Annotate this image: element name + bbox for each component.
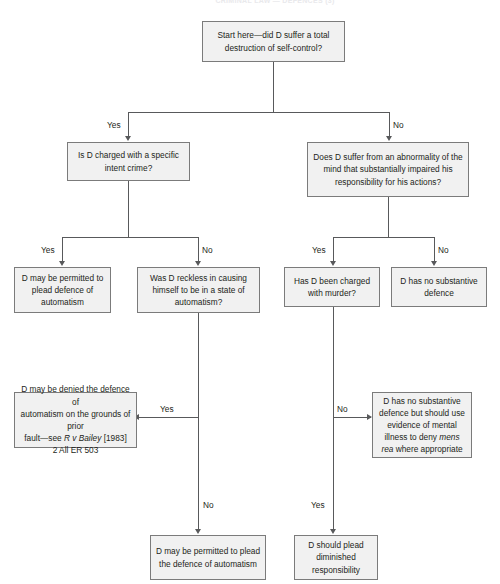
node-no-substantive-defence: D has no substantive defence <box>391 267 487 307</box>
node-reckless: Was D reckless in causing himself to be … <box>137 267 260 313</box>
edge-label-no-2: No <box>202 245 213 255</box>
arrowhead-no5 <box>195 529 201 534</box>
mens-rea-line-2: defence but should use <box>379 408 465 418</box>
node-denied-prior-fault-label: D may be denied the defence of automatis… <box>19 383 132 456</box>
node-permitted-automatism-label: D may be permitted to plead defence of a… <box>19 272 106 309</box>
denied-line-2: automatism on the grounds of prior <box>21 409 131 431</box>
chart-title: CRIMINAL LAW — DEFENCES (3) <box>170 0 380 6</box>
arrowhead-no2 <box>195 261 201 266</box>
node-diminished-responsibility: D should plead diminished responsibility <box>294 535 378 580</box>
mens-rea-italic-2: rea <box>381 444 393 454</box>
node-denied-prior-fault: D may be denied the defence of automatis… <box>14 392 137 448</box>
connector-murder-spine <box>333 307 334 530</box>
mens-rea-line-1: D has no substantive <box>383 396 460 406</box>
edge-label-no-3: No <box>438 245 449 255</box>
connector-row2-right-bus <box>333 237 434 238</box>
node-diminished-responsibility-label: D should plead diminished responsibility <box>299 539 373 576</box>
arrowhead-yes3 <box>330 261 336 266</box>
node-charged-murder-label: Has D been charged with murder? <box>289 275 375 299</box>
edge-label-yes-4: Yes <box>160 404 174 414</box>
arrowhead-yes5 <box>330 529 336 534</box>
node-permitted-plead-label: D may be permitted to plead the defence … <box>155 545 261 569</box>
arrowhead-yes2 <box>59 261 65 266</box>
node-specific-intent: Is D charged with a specific intent crim… <box>67 142 190 181</box>
denied-line-3c: [1983] <box>101 433 126 443</box>
connector-yes3-down <box>333 237 334 262</box>
arrowhead-yes1 <box>125 136 131 141</box>
node-permitted-automatism: D may be permitted to plead defence of a… <box>14 267 111 313</box>
node-permitted-plead: D may be permitted to plead the defence … <box>150 535 266 580</box>
mens-rea-italic-1: mens <box>439 432 459 442</box>
node-no-substantive-defence-label: D has no substantive defence <box>396 275 482 299</box>
connector-row1-bus <box>128 112 389 113</box>
edge-label-yes-5: Yes <box>311 500 325 510</box>
edge-label-no-5: No <box>203 500 214 510</box>
connector-no1-down <box>389 112 390 137</box>
node-start: Start here—did D suffer a total destruct… <box>202 21 345 62</box>
edge-label-no-1: No <box>393 120 404 130</box>
denied-line-3a: fault—see <box>24 433 64 443</box>
connector-no3-down <box>434 237 435 262</box>
connector-no2-down <box>198 237 199 262</box>
node-specific-intent-label: Is D charged with a specific intent crim… <box>72 149 185 173</box>
denied-line-1: D may be denied the defence of <box>21 384 129 406</box>
connector-yes4-left <box>137 417 198 418</box>
arrowhead-no3 <box>431 261 437 266</box>
connector-yes2-down <box>62 237 63 262</box>
node-start-label: Start here—did D suffer a total destruct… <box>207 29 340 53</box>
edge-label-yes-1: Yes <box>107 120 121 130</box>
arrowhead-no1 <box>386 136 392 141</box>
edge-label-yes-2: Yes <box>41 245 55 255</box>
connector-reckless-spine <box>198 313 199 530</box>
connector-no4-right <box>333 417 371 418</box>
node-mens-rea: D has no substantive defence but should … <box>372 392 472 458</box>
mens-rea-line-5b: where appropriate <box>393 444 462 454</box>
connector-row2-left-bus <box>62 237 198 238</box>
mens-rea-line-3: evidence of mental <box>387 420 457 430</box>
edge-label-yes-3: Yes <box>312 245 326 255</box>
node-mens-rea-label: D has no substantive defence but should … <box>377 395 467 456</box>
denied-line-4: 2 All ER 503 <box>53 445 99 455</box>
connector-start-down <box>273 62 274 112</box>
node-charged-murder: Has D been charged with murder? <box>284 267 380 307</box>
node-abnormality: Does D suffer from an abnormality of the… <box>307 142 469 197</box>
flowchart-canvas: CRIMINAL LAW — DEFENCES (3) Start here—d… <box>0 0 500 584</box>
node-reckless-label: Was D reckless in causing himself to be … <box>142 272 255 309</box>
case-citation-name: R v Bailey <box>64 433 101 443</box>
edge-label-no-4: No <box>337 404 348 414</box>
node-abnormality-label: Does D suffer from an abnormality of the… <box>312 151 464 188</box>
connector-abnormality-down <box>388 197 389 237</box>
connector-yes1-down <box>128 112 129 137</box>
mens-rea-line-4a: illness to deny <box>384 432 439 442</box>
connector-specific-intent-down <box>128 181 129 237</box>
